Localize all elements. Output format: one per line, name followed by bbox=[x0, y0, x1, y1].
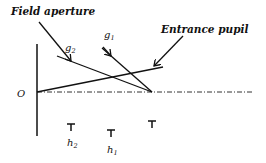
g2-label: g2 bbox=[65, 42, 76, 55]
entrance-pupil-pointer-arrow bbox=[154, 36, 183, 66]
h1-label: h1 bbox=[107, 144, 118, 157]
g1-label: g1 bbox=[104, 29, 115, 42]
field-aperture-label: Field aperture bbox=[10, 5, 95, 17]
ray-from-origin bbox=[37, 67, 163, 92]
ray-through-g2 bbox=[57, 56, 152, 92]
entrance-pupil-label: Entrance pupil bbox=[160, 23, 248, 35]
optical-diagram: Field aperture Entrance pupil O g1 g2 h2… bbox=[0, 0, 266, 163]
h2-marker-icon bbox=[67, 124, 75, 131]
h1-marker-icon bbox=[107, 130, 115, 137]
origin-label: O bbox=[17, 88, 25, 99]
g1-pointer-arrow bbox=[103, 47, 111, 56]
h2-label: h2 bbox=[67, 137, 78, 150]
h3-marker-icon bbox=[148, 121, 156, 128]
